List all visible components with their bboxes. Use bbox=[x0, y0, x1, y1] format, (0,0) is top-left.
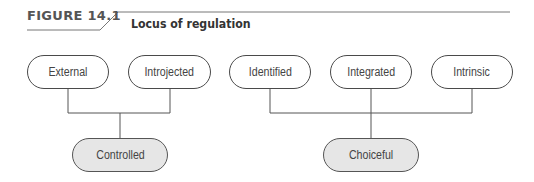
figure-title: Locus of regulation bbox=[131, 16, 251, 31]
node-introjected: Introjected bbox=[128, 55, 211, 89]
node-label: Integrated bbox=[347, 65, 395, 79]
node-external: External bbox=[27, 55, 109, 89]
node-controlled: Controlled bbox=[72, 138, 168, 172]
node-label: External bbox=[49, 65, 88, 79]
figure-number: FIGURE 14.1 bbox=[27, 8, 121, 23]
node-label: Controlled bbox=[96, 148, 144, 162]
node-label: Identified bbox=[248, 65, 291, 79]
node-label: Choiceful bbox=[349, 148, 393, 162]
node-intrinsic: Intrinsic bbox=[431, 55, 513, 89]
node-choiceful: Choiceful bbox=[323, 138, 419, 172]
node-label: Introjected bbox=[145, 65, 195, 79]
node-label: Intrinsic bbox=[454, 65, 491, 79]
node-integrated: Integrated bbox=[330, 55, 412, 89]
node-identified: Identified bbox=[229, 55, 311, 89]
